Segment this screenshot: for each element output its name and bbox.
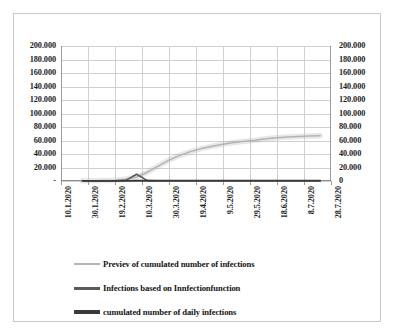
y-axis-left-tick: 200.000	[30, 41, 56, 51]
x-axis-tick-label: 19.2.2020	[118, 186, 127, 218]
y-axis-right-tick: 60.000	[339, 136, 361, 146]
x-axis-tick-label: 30.1.2020	[91, 186, 100, 218]
series-lines	[61, 46, 331, 181]
y-axis-left-tick: 40.000	[34, 149, 56, 159]
y-axis-left-tick: 20.000	[34, 163, 56, 173]
legend-item[interactable]: Previev of cumulated number of infection…	[74, 252, 374, 276]
x-axis-tick-label: 18.6.2020	[280, 186, 289, 218]
thin-line-icon	[74, 263, 100, 265]
medium-line-icon	[74, 287, 100, 290]
y-axis-right-tick: 140.000	[339, 82, 365, 92]
y-axis-right-tick: 80.000	[339, 122, 361, 132]
x-axis-tick-label: 8.7.2020	[307, 186, 316, 214]
legend-item-label: Previev of cumulated number of infection…	[103, 259, 254, 269]
plot-background	[61, 46, 331, 181]
x-axis-tick-label: 9.5.2020	[226, 186, 235, 214]
legend-item[interactable]: cumulated number of daily infections	[74, 300, 374, 324]
x-axis-tick-label: 30.3.2020	[172, 186, 181, 218]
y-axis-left-tick: 180.000	[30, 55, 56, 65]
y-axis-left-tick: -	[53, 176, 56, 186]
y-axis-left-tick: 140.000	[30, 82, 56, 92]
y-axis-right-tick: 0	[339, 176, 343, 186]
x-axis-tick-label: 10.3.2020	[145, 186, 154, 218]
y-axis-right-tick: 40.000	[339, 149, 361, 159]
x-axis-tick-label: 10.1.2020	[64, 186, 73, 218]
y-axis-right-tick: 180.000	[339, 55, 365, 65]
y-axis-left-tick: 80.000	[34, 122, 56, 132]
legend-item-label: cumulated number of daily infections	[103, 307, 236, 317]
y-axis-right-tick: 160.000	[339, 68, 365, 78]
y-axis-left-tick: 160.000	[30, 68, 56, 78]
legend-item[interactable]: Infections based on Innfectionfunction	[74, 276, 374, 300]
y-axis-left-tick: 100.000	[30, 109, 56, 119]
plot-area	[61, 46, 331, 181]
y-axis-left-tick: 120.000	[30, 95, 56, 105]
y-axis-right-tick: 20.000	[339, 163, 361, 173]
series-halo	[83, 136, 321, 181]
thick-line-icon	[74, 310, 100, 314]
chart-frame: 200.000180.000160.000140.000120.000100.0…	[13, 13, 381, 322]
y-axis-right-tick: 200.000	[339, 41, 365, 51]
x-axis-tick	[61, 181, 62, 185]
x-axis-labels: 10.1.202030.1.202019.2.202010.3.202030.3…	[61, 186, 331, 246]
series-line	[83, 136, 321, 181]
y-axis-right-tick: 120.000	[339, 95, 365, 105]
y-axis-left-tick: 60.000	[34, 136, 56, 146]
x-axis-tick-label: 29.5.2020	[253, 186, 262, 218]
chart-legend: Previev of cumulated number of infection…	[74, 252, 374, 324]
x-axis-tick-label: 28.7.2020	[334, 186, 343, 218]
x-axis-tick-label: 19.4.2020	[199, 186, 208, 218]
legend-item-label: Infections based on Innfectionfunction	[103, 283, 240, 293]
y-axis-right-tick: 100.000	[339, 109, 365, 119]
x-axis-tick	[331, 181, 332, 185]
